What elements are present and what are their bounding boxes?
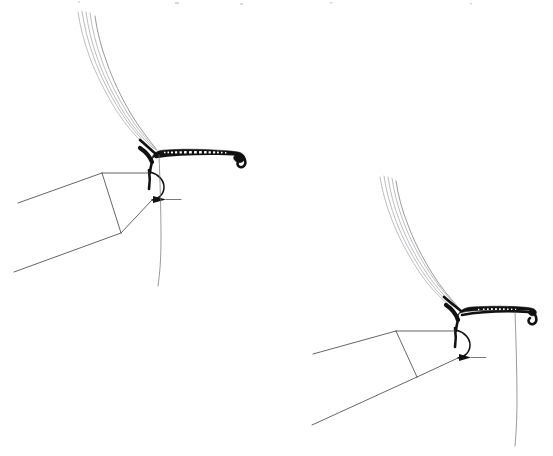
figure-canvas: Two-panel line drawing Scanned pen-and-i… bbox=[0, 0, 553, 456]
background bbox=[0, 0, 553, 456]
line-art-figure bbox=[0, 0, 553, 456]
